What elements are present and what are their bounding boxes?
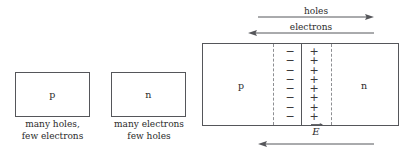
depletion-edge-left-dashed-line xyxy=(273,44,274,125)
p-type-caption-line-1: many holes, xyxy=(5,119,100,131)
depletion-edge-right-dashed-line xyxy=(331,44,332,125)
p-type-label: p xyxy=(16,90,89,100)
metallurgical-junction-line xyxy=(301,44,302,125)
holes-flow-arrow: holes xyxy=(258,8,374,22)
negative-charge-column: − − − − − − − − xyxy=(279,48,301,121)
holes-arrow-label: holes xyxy=(301,6,331,16)
electrons-flow-arrow: electrons xyxy=(248,24,374,38)
pn-junction-figure: p many holes, few electrons n many elect… xyxy=(0,0,409,155)
vector-arrow-icon xyxy=(311,122,323,126)
junction-n-region-label: n xyxy=(334,79,394,90)
p-type-caption: many holes, few electrons xyxy=(5,119,100,142)
n-type-block: n xyxy=(111,72,186,117)
p-type-block: p xyxy=(15,72,90,117)
junction-p-region-label: p xyxy=(211,79,271,90)
positive-charge: + xyxy=(309,113,318,121)
negative-charge: − xyxy=(285,113,294,121)
electric-field-vector-symbol: E xyxy=(312,126,319,137)
n-type-caption-line-2: few holes xyxy=(100,131,198,143)
n-type-caption: many electrons few holes xyxy=(100,119,198,142)
positive-charge-column: + + + + + + + + xyxy=(303,48,325,121)
electrons-arrow-label: electrons xyxy=(287,22,335,32)
electric-field-letter: E xyxy=(312,126,319,137)
n-type-label: n xyxy=(112,90,185,100)
pn-junction-block: p n − − − − − − − − + + + + + + + + xyxy=(202,43,399,126)
n-type-caption-line-1: many electrons xyxy=(100,119,198,131)
electric-field-label: E xyxy=(258,126,374,137)
p-type-caption-line-2: few electrons xyxy=(5,131,100,143)
electric-field-arrow xyxy=(258,139,374,153)
